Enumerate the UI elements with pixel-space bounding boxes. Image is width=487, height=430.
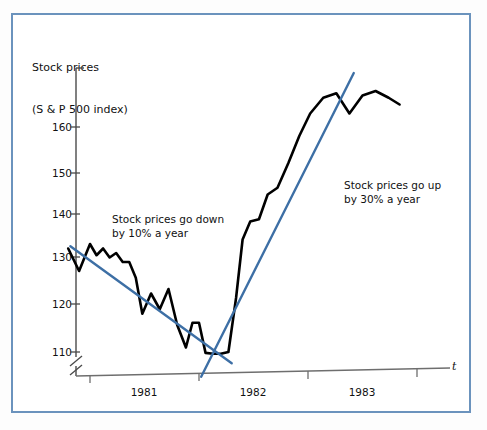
y-tick-marks xyxy=(70,127,80,352)
axis-break-slash-1 xyxy=(70,356,82,366)
downtrend-line xyxy=(70,246,231,363)
stock-price-line xyxy=(68,91,399,354)
x-axis-line xyxy=(76,368,450,376)
chart-plot-area xyxy=(0,0,487,430)
axes-group xyxy=(76,68,450,376)
uptrend-line xyxy=(201,73,354,377)
figure-container: Stock prices (S & P 500 index) Stock pri… xyxy=(0,0,487,430)
x-tick-marks xyxy=(90,369,417,383)
